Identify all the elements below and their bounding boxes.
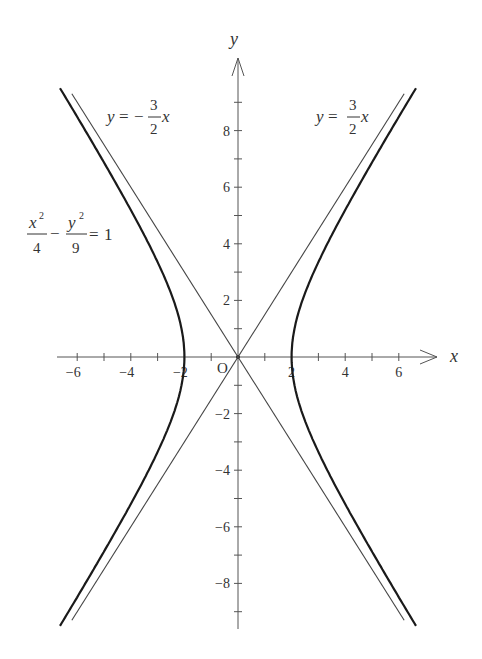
x-tick-label: −2: [173, 365, 188, 380]
svg-text:y: y: [66, 213, 76, 232]
y-tick-label: −6: [215, 520, 230, 535]
svg-text:−: −: [134, 107, 144, 126]
hyperbola-equation-label: x 2 4 − y 2 9 = 1: [27, 210, 113, 256]
svg-text:y: y: [105, 107, 115, 126]
svg-text:4: 4: [33, 240, 41, 256]
svg-text:2: 2: [79, 210, 84, 221]
y-tick-label: 4: [223, 237, 230, 252]
x-tick-label: 6: [395, 365, 402, 380]
x-tick-label: −6: [66, 365, 81, 380]
asymptote-positive-label: y = 3 2 x: [314, 97, 369, 137]
y-tick-label: −8: [215, 576, 230, 591]
asymptote-negative-label: y = − 3 2 x: [105, 97, 170, 137]
origin-label: O: [217, 360, 228, 376]
svg-text:−: −: [50, 224, 60, 243]
svg-text:x: x: [360, 107, 369, 126]
svg-text:x: x: [161, 107, 170, 126]
svg-text:3: 3: [150, 97, 158, 113]
hyperbola-chart: −6−4−22468642−2−4−6−8 x y O y = − 3 2 x …: [0, 0, 482, 659]
svg-text:x: x: [28, 213, 37, 232]
svg-text:=: =: [89, 225, 99, 244]
x-tick-label: 4: [342, 365, 349, 380]
svg-text:2: 2: [150, 121, 158, 137]
y-tick-label: 2: [223, 293, 230, 308]
svg-text:9: 9: [72, 240, 80, 256]
svg-text:1: 1: [104, 225, 113, 244]
svg-text:2: 2: [39, 210, 44, 221]
labels: x y O y = − 3 2 x y = 3 2 x x 2 4 −: [27, 29, 458, 376]
y-tick-label: 6: [223, 180, 230, 195]
svg-text:2: 2: [349, 121, 357, 137]
y-tick-label: −4: [215, 463, 230, 478]
svg-text:=: =: [119, 107, 129, 126]
svg-text:3: 3: [349, 97, 357, 113]
y-tick-label: −2: [215, 407, 230, 422]
x-axis-label: x: [449, 346, 458, 366]
svg-text:y: y: [314, 107, 324, 126]
x-tick-label: −4: [119, 365, 134, 380]
y-tick-label: 8: [223, 124, 230, 139]
y-axis-label: y: [228, 29, 238, 49]
svg-text:=: =: [328, 107, 338, 126]
